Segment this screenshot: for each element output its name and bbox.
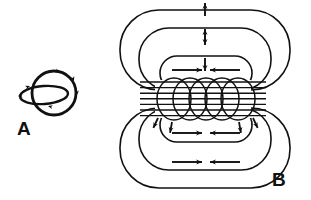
panel-label-b: B	[272, 169, 286, 190]
panel-label-a: A	[17, 118, 31, 139]
magnetic-field-diagram: A B	[0, 0, 311, 200]
physics-figure-canvas: A B	[0, 0, 311, 200]
